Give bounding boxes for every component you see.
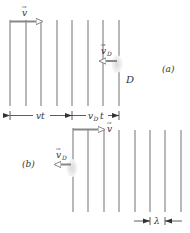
dim-vdt-subscript: D xyxy=(93,115,99,122)
dimension-wavelength: λ xyxy=(134,216,182,226)
detector-a xyxy=(112,55,123,73)
detector-b xyxy=(67,159,78,177)
detector-velocity-subscript-a: D xyxy=(106,50,112,57)
doppler-diagram: v → v D → D (a) vt v D t xyxy=(0,0,190,233)
wavefronts-b xyxy=(73,128,181,212)
vector-arrow-icon: → xyxy=(22,3,27,10)
source-label-d: D xyxy=(125,74,134,85)
detector-velocity-subscript-b: D xyxy=(61,154,67,161)
dim-vdt-label: v xyxy=(88,111,93,121)
dimension-vt: vt xyxy=(10,111,72,121)
dim-vt-label: vt xyxy=(36,111,45,121)
panel-label-a: (a) xyxy=(162,64,175,74)
vector-arrow-icon: → xyxy=(107,119,112,126)
wavelength-label: λ xyxy=(153,216,160,226)
dim-vdt-tail: t xyxy=(100,111,104,121)
vector-arrow-icon: → xyxy=(101,41,106,48)
panel-a: v → v D → D (a) vt v D t xyxy=(10,3,175,122)
vector-arrow-icon: → xyxy=(56,145,61,152)
panel-label-b: (b) xyxy=(22,159,35,169)
dimension-vdt: v D t xyxy=(72,111,119,122)
wavefronts-a xyxy=(10,20,119,106)
panel-b: v → v D → (b) λ xyxy=(22,119,182,226)
